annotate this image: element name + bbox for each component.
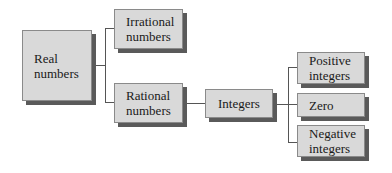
connector-to-negative bbox=[288, 142, 297, 143]
connector-to-zero bbox=[288, 104, 297, 105]
node-zero: Zero bbox=[297, 93, 365, 117]
node-label: Rational numbers bbox=[126, 88, 182, 118]
node-rational-numbers: Rational numbers bbox=[114, 83, 183, 123]
connector-integers-stem bbox=[273, 104, 289, 105]
connector-to-irrational bbox=[105, 28, 114, 29]
node-integers: Integers bbox=[205, 89, 273, 118]
node-label: Positive integers bbox=[309, 53, 359, 83]
node-negative-integers: Negative integers bbox=[297, 125, 365, 157]
connector-integers-vertical bbox=[288, 67, 289, 143]
node-label: Integers bbox=[218, 96, 260, 111]
node-label: Real numbers bbox=[34, 51, 86, 81]
node-label: Irrational numbers bbox=[126, 14, 182, 44]
node-positive-integers: Positive integers bbox=[297, 52, 365, 84]
connector-real-stem bbox=[92, 65, 106, 66]
node-label: Zero bbox=[309, 98, 334, 113]
node-irrational-numbers: Irrational numbers bbox=[114, 9, 183, 49]
connector-to-positive bbox=[288, 67, 297, 68]
connector-to-rational bbox=[105, 102, 114, 103]
node-real-numbers: Real numbers bbox=[22, 30, 92, 101]
connector-rational-integers bbox=[183, 103, 205, 104]
node-label: Negative integers bbox=[309, 126, 361, 156]
connector-real-vertical bbox=[105, 28, 106, 103]
